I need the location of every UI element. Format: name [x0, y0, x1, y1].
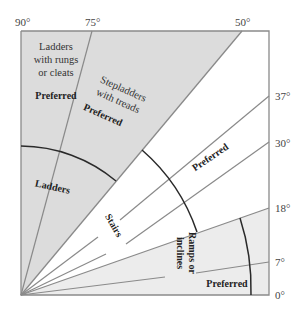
- ramps-line2: inclines: [175, 237, 186, 269]
- ladders-rungs-preferred: Preferred: [35, 90, 77, 101]
- label-90deg: 90°: [15, 16, 30, 28]
- ramps-line1: Ramps or: [187, 232, 198, 275]
- ramps-preferred: Preferred: [206, 278, 248, 289]
- label-30deg: 30°: [275, 137, 290, 149]
- ladders-rungs-line2: with rungs: [34, 54, 79, 65]
- label-0deg: 0°: [275, 289, 285, 301]
- angle-diagram: 90° 75° 50° 37° 30° 18° 7° 0° Ladders wi…: [0, 0, 305, 309]
- ladders-rungs-line1: Ladders: [39, 41, 73, 52]
- label-18deg: 18°: [275, 202, 290, 214]
- label-37deg: 37°: [275, 90, 290, 102]
- label-7deg: 7°: [275, 256, 285, 268]
- stairs-label: Stairs: [103, 212, 125, 239]
- label-75deg: 75°: [85, 16, 100, 28]
- label-50deg: 50°: [235, 16, 250, 28]
- ladders-rungs-line3: or cleats: [38, 67, 73, 78]
